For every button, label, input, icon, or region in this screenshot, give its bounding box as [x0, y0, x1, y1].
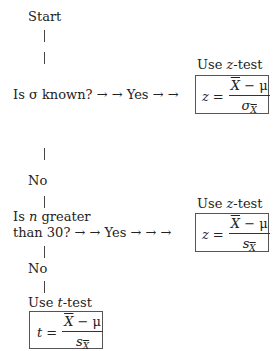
result-label-t-test: Use t-test — [28, 296, 92, 309]
start-label: Start — [28, 10, 61, 23]
connector-line — [44, 30, 45, 42]
connector-line — [44, 52, 45, 64]
arrow-icon: → → — [75, 225, 101, 240]
no-label: No — [28, 262, 47, 275]
question-n-greater-30: Is n greater — [13, 210, 91, 223]
connector-line — [44, 148, 45, 160]
arrow-icon: → → — [153, 87, 179, 102]
question-n-line2: than 30? → → Yes → → → — [13, 226, 172, 239]
yes-label: Yes — [127, 87, 149, 102]
result-label-z-test: Use z-test — [197, 58, 263, 71]
connector-line — [44, 246, 45, 258]
connector-line — [44, 196, 45, 208]
formula-box-t: t= X − μ sX — [29, 311, 103, 349]
connector-line — [44, 281, 45, 293]
formula-box-z-s: z= X − μ sX — [195, 213, 269, 252]
question-sigma-known: Is σ known? → → Yes → → — [13, 88, 179, 101]
formula-box-z-sigma: z= X − μ σX — [195, 75, 269, 114]
question-text: Is σ known? — [13, 87, 93, 102]
arrow-icon: → → — [97, 87, 123, 102]
result-label-z-test: Use z-test — [197, 197, 263, 210]
arrow-icon: → → → — [131, 225, 172, 240]
no-label: No — [28, 174, 47, 187]
yes-label: Yes — [105, 225, 127, 240]
